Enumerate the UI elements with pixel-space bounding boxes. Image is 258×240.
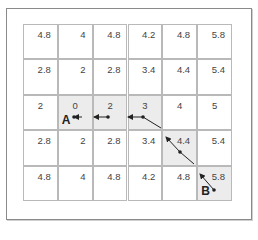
grid-cell: 4 xyxy=(58,166,93,201)
goal-label: B xyxy=(201,184,210,198)
cell-value: 4.2 xyxy=(142,29,155,40)
grid-cell: 2.8 xyxy=(23,59,58,94)
cell-value: 4.8 xyxy=(107,29,120,40)
cell-value: 2 xyxy=(24,100,57,111)
cell-value: 4.4 xyxy=(177,64,190,75)
cell-value: 3.4 xyxy=(142,64,155,75)
cell-value: 2 xyxy=(94,100,127,111)
cell-value: 5.4 xyxy=(212,135,225,146)
cell-value: 4.8 xyxy=(107,171,120,182)
grid-cell: 4.8 xyxy=(162,24,197,59)
grid-cell: 3.4 xyxy=(128,59,163,94)
grid-cell: 5.8 xyxy=(197,24,232,59)
grid-cell: 3.4 xyxy=(128,130,163,165)
grid-cell: 4.8 xyxy=(162,166,197,201)
cell-value: 5 xyxy=(198,100,231,111)
cell-value: 4.8 xyxy=(177,29,190,40)
cell-value: 4.8 xyxy=(38,171,51,182)
grid-cell: 4.8 xyxy=(23,166,58,201)
cell-value: 5.8 xyxy=(212,171,225,182)
grid-cell: 4.8 xyxy=(93,166,128,201)
grid-cell: 5.4 xyxy=(197,130,232,165)
grid-cell: 2 xyxy=(23,95,58,130)
cell-value: 2.8 xyxy=(38,135,51,146)
cell-value: 4 xyxy=(80,29,85,40)
grid-cell: 4.2 xyxy=(128,24,163,59)
cell-value: 2 xyxy=(80,64,85,75)
grid-cell: 2 xyxy=(93,95,128,130)
grid-cell: 0A xyxy=(58,95,93,130)
grid-cell: 5.8B xyxy=(197,166,232,201)
grid-cell: 4.8 xyxy=(93,24,128,59)
cell-value: 4 xyxy=(163,100,196,111)
cell-value: 3.4 xyxy=(142,135,155,146)
value-grid: 4.844.84.24.85.82.822.83.44.45.420A23452… xyxy=(23,24,232,201)
cell-value: 4.8 xyxy=(38,29,51,40)
grid-cell: 2 xyxy=(58,130,93,165)
cell-value: 4.2 xyxy=(142,171,155,182)
cell-value: 4.8 xyxy=(177,171,190,182)
cell-value: 2 xyxy=(80,135,85,146)
cell-value: 0 xyxy=(59,100,92,111)
cell-value: 4.4 xyxy=(177,135,190,146)
grid-cell: 4.8 xyxy=(23,24,58,59)
grid-cell: 2.8 xyxy=(93,130,128,165)
grid-cell: 2 xyxy=(58,59,93,94)
cell-value: 4 xyxy=(80,171,85,182)
cell-value: 2.8 xyxy=(107,135,120,146)
cell-value: 3 xyxy=(129,100,162,111)
grid-cell: 2.8 xyxy=(93,59,128,94)
grid-cell: 4.4 xyxy=(162,59,197,94)
cell-value: 5.8 xyxy=(212,29,225,40)
cell-value: 2.8 xyxy=(38,64,51,75)
start-label: A xyxy=(62,113,71,127)
grid-cell: 4.2 xyxy=(128,166,163,201)
grid-cell: 3 xyxy=(128,95,163,130)
grid-cell: 2.8 xyxy=(23,130,58,165)
grid-cell: 5.4 xyxy=(197,59,232,94)
grid-cell: 5 xyxy=(197,95,232,130)
grid-cell: 4 xyxy=(162,95,197,130)
grid-cell: 4.4 xyxy=(162,130,197,165)
cell-value: 2.8 xyxy=(107,64,120,75)
grid-cell: 4 xyxy=(58,24,93,59)
cell-value: 5.4 xyxy=(212,64,225,75)
